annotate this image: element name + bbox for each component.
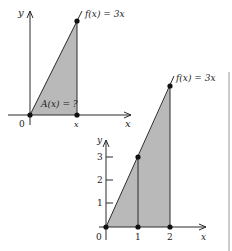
- x-tick-label-2: 2: [167, 232, 173, 242]
- x-axis-label-top: x: [125, 118, 131, 129]
- area-label-top: A(x) = ?: [40, 99, 78, 109]
- y-tick-label-3: 3: [97, 152, 103, 162]
- bottom-graph: y x 0 1 2 3 2 1 f(x) = 3x: [96, 73, 216, 242]
- point-f2: [167, 83, 172, 88]
- y-tick-label-1: 1: [97, 198, 103, 208]
- diagram-canvas: y x 0 x f(x) = 3x A(x) = ? y x 0 1 2 3 2…: [0, 0, 232, 251]
- x-tick-label-1: 1: [135, 232, 141, 242]
- point-x1-base: [135, 224, 140, 229]
- point-origin-top: [27, 112, 32, 117]
- y-axis-label-bottom: y: [96, 135, 103, 145]
- top-graph: y x 0 x f(x) = 3x A(x) = ?: [8, 7, 131, 129]
- origin-label-top: 0: [19, 119, 25, 129]
- y-tick-label-2: 2: [97, 175, 103, 185]
- point-x-top: [74, 112, 79, 117]
- point-f1: [135, 154, 140, 159]
- point-origin-bottom: [103, 224, 108, 229]
- origin-label-bottom: 0: [96, 232, 102, 242]
- function-label-top: f(x) = 3x: [84, 9, 125, 19]
- x-axis-label-bottom: x: [201, 232, 206, 242]
- point-fx-top: [74, 18, 79, 23]
- x-point-label-top: x: [74, 120, 79, 129]
- function-label-bottom: f(x) = 3x: [175, 73, 216, 83]
- point-x2-base: [167, 224, 172, 229]
- y-axis-label-top: y: [17, 7, 24, 18]
